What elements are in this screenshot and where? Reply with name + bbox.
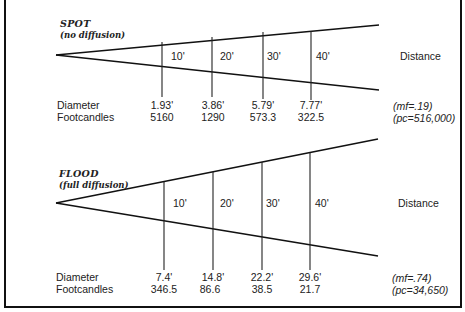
spot-footcandles-30: 573.3 bbox=[250, 111, 276, 123]
flood-diameter-30: 22.2' bbox=[251, 271, 273, 283]
spot-row-label-diameter: Diameter bbox=[57, 99, 100, 111]
flood-diameter-20: 14.8' bbox=[202, 271, 224, 283]
flood-subtitle: (full diffusion) bbox=[59, 180, 129, 190]
spot-row-label-footcandles: Footcandles bbox=[57, 111, 114, 123]
flood-distance-axis-label: Distance bbox=[398, 197, 439, 209]
spot-diameter-40: 7.77' bbox=[300, 99, 322, 111]
spot-distance-label-30: 30' bbox=[267, 50, 281, 62]
flood-pc-value: (pc=34,650) bbox=[392, 284, 448, 296]
spot-footcandles-40: 322.5 bbox=[298, 111, 324, 123]
spot-subtitle: (no diffusion) bbox=[60, 30, 125, 40]
flood-footcandles-10: 346.5 bbox=[151, 283, 177, 295]
flood-distance-label-20: 20' bbox=[220, 197, 234, 209]
spot-mf-value: (mf=.19) bbox=[393, 100, 432, 112]
spot-beam-bottom-edge bbox=[56, 55, 379, 90]
spot-diagram: SPOT (no diffusion) 10' 20' 30' 40' Dist… bbox=[56, 18, 455, 124]
flood-distance-label-40: 40' bbox=[315, 197, 329, 209]
flood-mf-value: (mf=.74) bbox=[392, 272, 431, 284]
flood-distance-label-10: 10' bbox=[173, 197, 187, 209]
spot-footcandles-10: 5160 bbox=[150, 111, 174, 123]
flood-beam-bottom-edge bbox=[56, 203, 378, 256]
flood-row-label-diameter: Diameter bbox=[56, 271, 99, 283]
flood-diameter-40: 29.6' bbox=[299, 271, 321, 283]
spot-footcandles-20: 1290 bbox=[201, 111, 225, 123]
flood-footcandles-20: 86.6 bbox=[200, 283, 221, 295]
flood-row-label-footcandles: Footcandles bbox=[56, 283, 113, 295]
beam-diagram-canvas: SPOT (no diffusion) 10' 20' 30' 40' Dist… bbox=[0, 0, 465, 312]
spot-diameter-20: 3.86' bbox=[202, 99, 224, 111]
spot-distance-label-20: 20' bbox=[220, 50, 234, 62]
flood-distance-label-30: 30' bbox=[266, 197, 280, 209]
spot-title: SPOT bbox=[60, 18, 91, 29]
flood-footcandles-40: 21.7 bbox=[300, 283, 321, 295]
flood-footcandles-30: 38.5 bbox=[252, 283, 273, 295]
flood-diagram: FLOOD (full diffusion) 10' 20' 30' 40' D… bbox=[56, 139, 448, 296]
spot-distance-label-10: 10' bbox=[171, 50, 185, 62]
spot-pc-value: (pc=516,000) bbox=[393, 112, 455, 124]
flood-beam-top-edge bbox=[56, 139, 378, 203]
spot-diameter-10: 1.93' bbox=[151, 99, 173, 111]
spot-distance-label-40: 40' bbox=[316, 50, 330, 62]
spot-diameter-30: 5.79' bbox=[252, 99, 274, 111]
spot-distance-axis-label: Distance bbox=[400, 50, 441, 62]
flood-diameter-10: 7.4' bbox=[156, 271, 173, 283]
flood-title: FLOOD bbox=[58, 168, 99, 179]
